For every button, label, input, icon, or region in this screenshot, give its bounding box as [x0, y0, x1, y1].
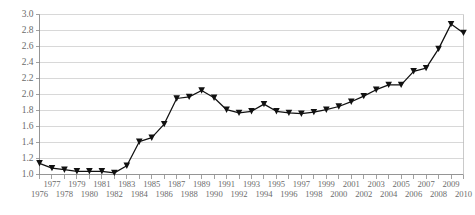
x-axis-tick-label: 1989	[193, 179, 210, 189]
x-axis-tick-label: 2007	[417, 179, 435, 189]
x-axis-tick-label: 1999	[318, 179, 335, 189]
x-axis-tick-label: 1976	[31, 189, 49, 199]
line-chart: 1.01.21.41.61.82.02.22.42.62.83.01976197…	[0, 0, 475, 215]
x-axis-tick-label: 1994	[255, 189, 273, 199]
data-point-marker	[261, 101, 268, 107]
data-point-marker	[123, 163, 130, 169]
data-point-marker	[373, 87, 380, 93]
y-axis-tick-label: 1.8	[22, 105, 34, 115]
x-axis-tick-label: 1992	[230, 189, 247, 199]
data-point-marker	[460, 30, 467, 36]
data-point-marker	[148, 135, 155, 141]
data-point-marker	[136, 139, 143, 145]
x-axis-tick-label: 2006	[405, 189, 423, 199]
x-axis-tick-label: 2008	[430, 189, 447, 199]
x-axis-tick-label: 2010	[455, 189, 472, 199]
data-point-marker	[348, 99, 355, 105]
y-axis-tick-label: 2.6	[22, 41, 34, 51]
data-point-marker	[435, 46, 442, 52]
chart-canvas: 1.01.21.41.61.82.02.22.42.62.83.01976197…	[0, 0, 475, 215]
x-axis-tick-label: 1997	[293, 179, 311, 189]
y-axis-tick-label: 1.0	[22, 169, 34, 179]
y-axis-tick-label: 1.6	[22, 121, 34, 131]
y-axis-tick-label: 2.2	[22, 73, 34, 83]
x-axis-tick-label: 1981	[93, 179, 110, 189]
x-axis-tick-label: 1982	[106, 189, 123, 199]
y-axis-tick-label: 1.4	[22, 137, 34, 147]
x-axis-tick-label: 1983	[118, 179, 135, 189]
y-axis-tick-label: 1.2	[22, 153, 34, 163]
data-point-marker	[36, 160, 43, 166]
x-axis-tick-label: 2001	[343, 179, 360, 189]
x-axis-tick-label: 1993	[243, 179, 260, 189]
y-axis-tick-label: 2.0	[22, 89, 34, 99]
x-axis-tick-label: 1987	[168, 179, 186, 189]
x-axis-tick-label: 1998	[305, 189, 322, 199]
x-axis-tick-label: 1985	[143, 179, 160, 189]
x-axis-tick-label: 1988	[181, 189, 198, 199]
data-point-marker	[360, 93, 367, 99]
x-axis-tick-label: 1979	[68, 179, 85, 189]
x-axis-tick-label: 2002	[355, 189, 372, 199]
x-axis-tick-label: 1990	[205, 189, 222, 199]
data-point-marker	[198, 87, 205, 93]
x-axis-tick-label: 2004	[380, 189, 398, 199]
x-axis-tick-label: 1991	[218, 179, 235, 189]
x-axis-tick-label: 2009	[442, 179, 459, 189]
x-axis-tick-label: 2003	[368, 179, 385, 189]
x-axis-tick-label: 1995	[268, 179, 285, 189]
x-axis-tick-label: 2000	[330, 189, 347, 199]
x-axis-tick-label: 1978	[56, 189, 73, 199]
x-axis-tick-label: 1977	[43, 179, 61, 189]
y-axis-tick-label: 3.0	[22, 9, 34, 19]
x-axis-tick-label: 1996	[280, 189, 298, 199]
y-axis-tick-label: 2.8	[22, 25, 34, 35]
x-axis-tick-label: 1980	[81, 189, 98, 199]
x-axis-tick-label: 2005	[393, 179, 410, 189]
x-axis-tick-label: 1986	[156, 189, 174, 199]
y-axis-tick-label: 2.4	[22, 57, 34, 67]
x-axis-tick-label: 1984	[131, 189, 149, 199]
